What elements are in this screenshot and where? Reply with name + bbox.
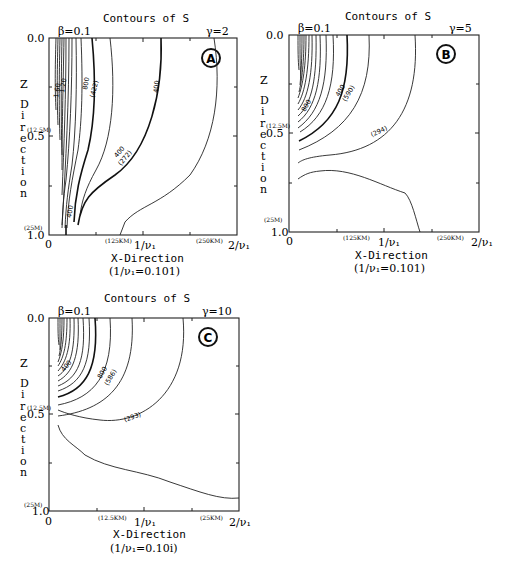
figure-canvas: Contours of S β=0.1 γ=2 A — [0, 0, 516, 574]
svg-text:C: C — [204, 331, 213, 345]
svg-text:1/ν₁: 1/ν₁ — [378, 236, 400, 249]
svg-text:2/ν₁: 2/ν₁ — [471, 236, 493, 249]
panel-a-contours — [55, 38, 217, 235]
svg-text:Z: Z — [20, 78, 28, 91]
panel-b-xnote: (1/ν₁=0.101) — [354, 262, 425, 275]
svg-text:n: n — [20, 187, 27, 200]
svg-text:(25M): (25M) — [24, 224, 42, 231]
svg-text:1.20: 1.20 — [58, 78, 68, 94]
svg-text:0: 0 — [286, 235, 293, 248]
panel-a-xnote: (1/ν₁=0.101) — [109, 265, 180, 278]
svg-text:800: 800 — [300, 98, 313, 113]
panel-c-xlabel: X-Direction — [113, 528, 186, 541]
svg-text:0: 0 — [45, 515, 52, 528]
svg-text:(293): (293) — [123, 410, 142, 423]
svg-text:(12.5M): (12.5M) — [266, 122, 290, 129]
panel-b-title: Contours of S — [345, 10, 431, 23]
svg-text:2/ν₁: 2/ν₁ — [228, 239, 250, 252]
panel-b-badge: B — [437, 45, 455, 63]
svg-text:1/ν₁: 1/ν₁ — [134, 239, 156, 252]
panel-c-gamma: γ=10 — [202, 305, 232, 318]
svg-text:400: 400 — [152, 80, 161, 93]
svg-text:A: A — [206, 52, 216, 66]
svg-text:(250KM): (250KM) — [196, 237, 223, 244]
svg-text:(125KM): (125KM) — [105, 237, 132, 244]
svg-text:2/ν₁: 2/ν₁ — [229, 516, 251, 529]
panel-b-xlabel: X-Direction — [355, 249, 428, 262]
svg-text:(12.5KM): (12.5KM) — [98, 514, 127, 521]
svg-text:0.0: 0.0 — [266, 29, 284, 42]
svg-text:(12.5M): (12.5M) — [27, 404, 51, 411]
panel-a-gamma: γ=2 — [206, 25, 229, 38]
panel-a-ytick-0: 0.0 — [27, 32, 45, 45]
svg-text:(125KM): (125KM) — [343, 234, 370, 241]
svg-text:Z: Z — [260, 74, 268, 87]
svg-text:(25KM): (25KM) — [200, 514, 223, 521]
svg-text:(25M): (25M) — [24, 501, 42, 508]
svg-text:n: n — [20, 466, 27, 479]
svg-text:(12.5M): (12.5M) — [27, 126, 51, 133]
svg-text:0.0: 0.0 — [27, 312, 45, 325]
panel-a-title: Contours of S — [103, 12, 189, 25]
panel-b-contours — [298, 35, 420, 232]
panel-c-badge: C — [199, 328, 217, 346]
panel-a: Contours of S β=0.1 γ=2 A — [20, 12, 250, 278]
panel-a-xlabel: X-Direction — [111, 252, 184, 265]
panel-a-beta: β=0.1 — [58, 25, 91, 38]
svg-text:0: 0 — [45, 238, 52, 251]
panel-c-xnote: (1/ν₁=0.10i) — [110, 542, 178, 555]
panel-a-badge: A — [202, 49, 220, 67]
panel-b-beta: β=0.1 — [298, 22, 331, 35]
svg-text:B: B — [441, 48, 450, 62]
svg-text:400: 400 — [59, 359, 73, 374]
svg-text:(250KM): (250KM) — [437, 234, 464, 241]
svg-text:(294): (294) — [369, 124, 388, 139]
panel-b-gamma: γ=5 — [449, 22, 472, 35]
panel-c: Contours of S β=0.1 γ=10 C — [20, 292, 251, 555]
panel-c-title: Contours of S — [104, 292, 190, 305]
panel-b: Contours of S β=0.1 γ=5 B — [260, 10, 493, 275]
panel-c-beta: β=0.1 — [58, 305, 91, 318]
svg-text:n: n — [260, 183, 267, 196]
svg-text:(25M): (25M) — [264, 216, 282, 223]
svg-text:Z: Z — [20, 357, 28, 370]
